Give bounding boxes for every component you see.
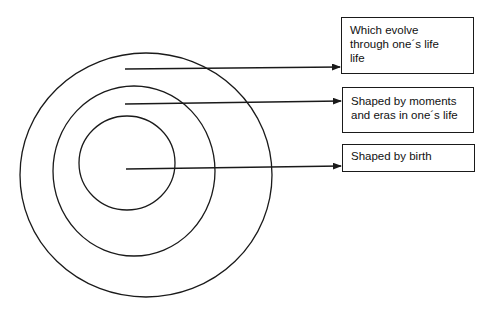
callout-text-line: Which evolve <box>350 23 465 37</box>
callout-box-inner: Shaped by birth <box>342 144 475 172</box>
callout-text-line: through one´s life <box>350 37 465 51</box>
callout-text-line: life <box>350 51 465 65</box>
middle-circle <box>53 86 215 256</box>
arrow-middle <box>125 101 341 104</box>
arrow-inner <box>126 166 341 169</box>
callout-box-middle: Shaped by moments and eras in one´s life <box>342 87 474 133</box>
callout-box-outer: Which evolve through one´s life life <box>341 17 474 74</box>
arrow-outer <box>125 67 340 69</box>
inner-circle <box>79 116 175 210</box>
outer-circle <box>20 53 272 297</box>
callout-text-line: and eras in one´s life <box>351 108 465 122</box>
callout-text-line: Shaped by birth <box>351 149 466 163</box>
concentric-circles-diagram: Which evolve through one´s life life Sha… <box>0 0 497 318</box>
callout-text-line: Shaped by moments <box>351 94 465 108</box>
